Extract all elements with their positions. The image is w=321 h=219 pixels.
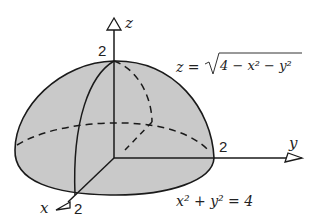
base-circle-equation: x² + y² = 4 (176, 193, 253, 209)
surface-eq-radicand: 4 − x² − y² (219, 58, 292, 73)
hemisphere-diagram: z 2 y 2 x 2 z = 4 − x² − y² x² + y² = 4 (0, 0, 321, 219)
y-tick-label: 2 (219, 138, 227, 155)
x-tick-label: 2 (74, 200, 82, 217)
y-axis-label: y (288, 134, 298, 152)
z-axis-label: z (124, 14, 133, 32)
x-axis-arrow-icon (56, 202, 70, 210)
z-axis-arrow-icon (107, 18, 121, 30)
z-tick-label: 2 (98, 42, 106, 59)
surface-eq-lhs: z = (175, 59, 200, 75)
x-axis-label: x (40, 199, 49, 217)
y-axis-arrow-icon (285, 153, 302, 162)
